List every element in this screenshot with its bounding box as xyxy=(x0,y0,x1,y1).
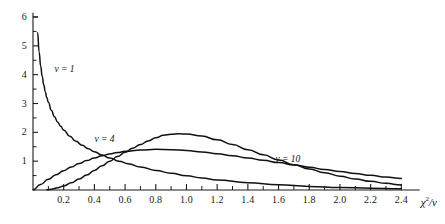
nu-symbol: ν xyxy=(432,196,437,208)
curve-label: ν = 4 xyxy=(94,135,114,145)
y-tick-label: 1 xyxy=(7,156,27,166)
y-tick-label: 4 xyxy=(7,70,27,80)
curve-nu-1 xyxy=(38,33,402,189)
x-tick-label: 0.8 xyxy=(142,195,170,205)
x-tick-label: 1.4 xyxy=(234,195,262,205)
distribution-curves xyxy=(33,33,401,190)
y-tick-label: 5 xyxy=(7,41,27,51)
axes xyxy=(33,13,420,190)
chi-square-distribution-chart xyxy=(0,0,445,224)
x-tick-label: 0.6 xyxy=(111,195,139,205)
y-axis-ticks xyxy=(33,17,38,176)
x-axis-title: χ2/ν xyxy=(421,194,437,208)
x-tick-label: 0.4 xyxy=(80,195,108,205)
curve-label: ν = 1 xyxy=(54,65,74,75)
x-tick-label: 1.0 xyxy=(172,195,200,205)
y-tick-label: 2 xyxy=(7,127,27,137)
x-tick-label: 1.8 xyxy=(295,195,323,205)
x-tick-label: 1.6 xyxy=(265,195,293,205)
x-tick-label: 0.2 xyxy=(50,195,78,205)
x-tick-label: 1.2 xyxy=(203,195,231,205)
x-tick-label: 2.4 xyxy=(387,195,415,205)
curve-label: ν = 10 xyxy=(275,155,300,165)
x-tick-label: 2.2 xyxy=(357,195,385,205)
y-tick-label: 6 xyxy=(7,12,27,22)
y-tick-label: 3 xyxy=(7,99,27,109)
curve-nu-4 xyxy=(33,149,401,190)
x-tick-label: 2.0 xyxy=(326,195,354,205)
